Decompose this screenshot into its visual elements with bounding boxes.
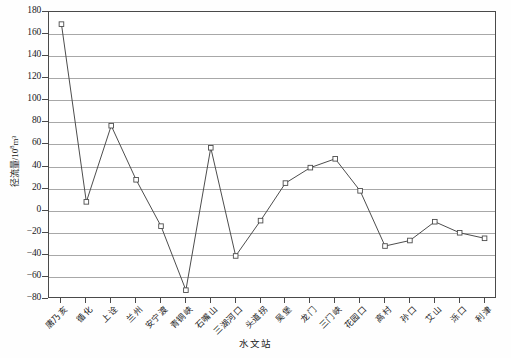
x-tick-mark	[409, 298, 410, 303]
y-tick-label: −60	[27, 271, 41, 281]
x-tick-mark	[185, 298, 186, 303]
x-tick-mark	[434, 298, 435, 303]
x-tick-mark	[459, 298, 460, 303]
y-tick-label: 0	[36, 205, 41, 215]
runoff-series	[49, 12, 497, 299]
data-point-5	[184, 288, 189, 293]
x-tick-label-16: 泺口	[449, 305, 468, 324]
y-tick-label: 40	[32, 161, 41, 171]
y-axis-title: 径流量/108m³	[8, 129, 21, 193]
y-axis-title-unit: m³	[10, 136, 20, 146]
data-point-16	[457, 230, 462, 235]
x-tick-mark	[260, 298, 261, 303]
data-point-1	[84, 200, 89, 205]
y-tick-label: 80	[32, 117, 41, 127]
data-point-9	[283, 181, 288, 186]
x-tick-label-2: 上诠	[100, 305, 119, 324]
x-tick-label-13: 高村	[374, 305, 393, 324]
x-tick-mark	[334, 298, 335, 303]
y-tick-label: 160	[27, 28, 41, 38]
x-tick-mark	[85, 298, 86, 303]
data-point-4	[159, 224, 164, 229]
x-tick-mark	[135, 298, 136, 303]
x-tick-mark	[160, 298, 161, 303]
y-tick-label: 180	[27, 6, 41, 16]
x-tick-label-8: 头道拐	[243, 305, 268, 330]
data-point-8	[258, 218, 263, 223]
y-tick-label: 140	[27, 50, 41, 60]
x-tick-mark	[60, 298, 61, 303]
y-tick-mark	[42, 298, 48, 299]
data-point-13	[383, 244, 388, 249]
x-tick-label-3: 兰州	[125, 305, 144, 324]
x-tick-mark	[284, 298, 285, 303]
data-point-12	[358, 189, 363, 194]
data-point-11	[333, 157, 338, 162]
x-tick-mark	[384, 298, 385, 303]
y-tick-label: 60	[32, 139, 41, 149]
data-point-17	[482, 236, 487, 241]
y-tick-label: −20	[27, 227, 41, 237]
y-tick-label: −40	[27, 249, 41, 259]
data-point-2	[109, 123, 114, 128]
x-tick-label-10: 龙门	[300, 305, 319, 324]
plot-area	[48, 11, 496, 298]
y-axis-title-main: 径流量/10	[10, 149, 20, 188]
x-tick-label-5: 青铜峡	[169, 305, 194, 330]
y-tick-label: 100	[27, 95, 41, 105]
data-point-15	[432, 219, 437, 224]
y-tick-label: 120	[27, 72, 41, 82]
x-tick-label-12: 花园口	[343, 305, 368, 330]
data-point-6	[208, 145, 213, 150]
x-tick-mark	[359, 298, 360, 303]
data-point-7	[233, 254, 238, 259]
x-tick-mark	[484, 298, 485, 303]
x-tick-label-9: 吴堡	[275, 305, 294, 324]
x-tick-label-11: 三门峡	[318, 305, 343, 330]
data-point-10	[308, 165, 313, 170]
x-tick-mark	[235, 298, 236, 303]
x-tick-label-4: 安宁渡	[144, 305, 169, 330]
series-line	[61, 24, 484, 290]
data-point-14	[408, 238, 413, 243]
x-tick-label-14: 孙口	[399, 305, 418, 324]
x-tick-label-0: 唐乃亥	[44, 305, 69, 330]
data-point-3	[134, 177, 139, 182]
y-tick-label: −80	[27, 293, 41, 303]
x-tick-label-17: 利津	[474, 305, 493, 324]
x-tick-mark	[309, 298, 310, 303]
x-axis-title: 水文站	[0, 336, 511, 350]
data-point-0	[59, 22, 64, 27]
x-tick-label-1: 循化	[76, 305, 95, 324]
y-axis-title-exponent: 8	[8, 145, 15, 148]
y-tick-label: 20	[32, 183, 41, 193]
x-tick-mark	[110, 298, 111, 303]
x-tick-label-15: 艾山	[424, 305, 443, 324]
runoff-line-chart-figure: 180160140120100806040200−20−40−60−80 径流量…	[0, 0, 511, 358]
x-tick-mark	[210, 298, 211, 303]
